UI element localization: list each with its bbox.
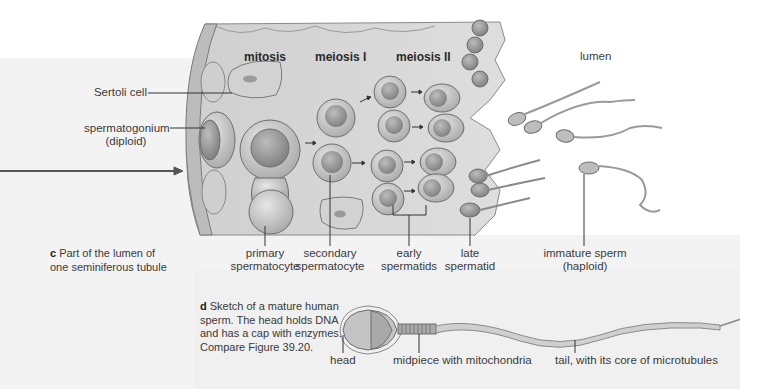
label-secondary-line2: spermatocyte: [290, 260, 370, 273]
caption-c: cPart of the lumen of one seminiferous t…: [50, 247, 167, 274]
label-spermatogonium: spermatogonium (diploid): [84, 122, 168, 148]
caption-d-line2: sperm. The head holds DNA: [200, 314, 342, 328]
caption-c-line2: one seminiferous tubule: [50, 261, 167, 275]
mature-sperm-sketch: [340, 306, 775, 354]
label-late-line1: late: [440, 247, 500, 260]
label-secondary-spermatocyte: secondary spermatocyte: [290, 247, 370, 273]
label-sertoli-cell: Sertoli cell: [90, 86, 147, 99]
lumen-label: lumen: [580, 50, 611, 62]
caption-d-letter: d: [200, 300, 207, 312]
label-spermatogonium-line2: (diploid): [84, 135, 168, 148]
label-late-line2: spermatid: [440, 260, 500, 273]
zoom-arrow: [0, 167, 183, 175]
stage-meiosis-i: meiosis I: [315, 50, 366, 64]
caption-d: dSketch of a mature human sperm. The hea…: [200, 300, 342, 354]
label-spermatogonium-line1: spermatogonium: [84, 122, 168, 135]
sertoli-cell-lower: [320, 197, 363, 229]
label-early-line1: early: [379, 247, 439, 260]
label-immature-line2: (haploid): [540, 260, 630, 273]
caption-d-line1: Sketch of a mature human: [210, 300, 339, 312]
right-margin: [740, 50, 783, 389]
label-head: head: [330, 354, 356, 367]
sperm-tail: [436, 323, 720, 348]
caption-c-letter: c: [50, 247, 56, 259]
seminiferous-tubule-illustration: [0, 0, 783, 389]
label-late-spermatid: late spermatid: [440, 247, 500, 273]
label-tail: tail, with its core of microtubules: [555, 354, 718, 367]
label-midpiece: midpiece with mitochondria: [393, 354, 532, 367]
caption-d-line3: and has a cap with enzymes.: [200, 327, 342, 341]
stage-meiosis-ii: meiosis II: [396, 50, 451, 64]
label-early-line2: spermatids: [379, 260, 439, 273]
label-immature-sperm: immature sperm (haploid): [540, 247, 630, 273]
caption-c-line1: Part of the lumen of: [59, 247, 155, 259]
stage-mitosis: mitosis: [244, 50, 286, 64]
label-early-spermatids: early spermatids: [379, 247, 439, 273]
caption-d-line4: Compare Figure 39.20.: [200, 341, 342, 355]
label-secondary-line1: secondary: [290, 247, 370, 260]
label-immature-line1: immature sperm: [540, 247, 630, 260]
spermatogonium-cell: [199, 112, 235, 168]
